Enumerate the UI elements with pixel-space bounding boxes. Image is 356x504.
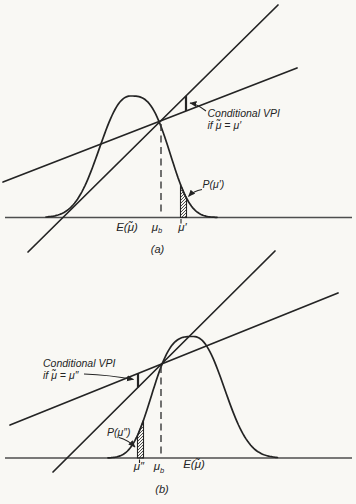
panel-b-expectation-label: E(μ̃) xyxy=(183,458,205,470)
panel-a-prob-label: P(μ′) xyxy=(203,178,225,190)
panel-a-expectation-label: E(μ̃) xyxy=(116,221,138,233)
panel-b: Conditional VPI if μ̃ = μ″ P(μ″) μ″ μb E… xyxy=(5,251,352,495)
panel-a-caption: (a) xyxy=(151,243,165,255)
panel-a: Conditional VPI if μ̃ = μ′ P(μ′) E(μ̃) μ… xyxy=(3,5,352,255)
panel-a-mu-b-label: μb xyxy=(151,221,162,236)
panel-b-probability-strip xyxy=(138,420,144,458)
panel-a-density-curve xyxy=(46,96,217,217)
panel-a-vpi-annotation-line1: Conditional VPI xyxy=(208,107,280,119)
vpi-figure: Conditional VPI if μ̃ = μ′ P(μ′) E(μ̃) μ… xyxy=(0,0,356,504)
panel-b-caption: (b) xyxy=(155,483,169,495)
panel-a-probability-strip xyxy=(181,184,187,217)
figure-canvas: Conditional VPI if μ̃ = μ′ P(μ′) E(μ̃) μ… xyxy=(0,0,356,504)
panel-a-mu-prime-label: μ′ xyxy=(177,221,187,233)
panel-b-mu-double-prime-label: μ″ xyxy=(133,460,145,472)
panel-a-shallow-payoff-line xyxy=(3,68,297,182)
panel-b-vpi-annotation-line2: if μ̃ = μ″ xyxy=(43,369,80,381)
panel-a-prob-arrow xyxy=(189,190,203,197)
panel-b-vpi-arrow xyxy=(84,374,134,380)
panel-b-vpi-annotation-line1: Conditional VPI xyxy=(43,357,115,369)
panel-b-mu-b-label: μb xyxy=(153,460,164,475)
panel-b-prob-label: P(μ″) xyxy=(107,426,130,438)
panel-b-density-curve xyxy=(108,337,278,458)
panel-a-vpi-annotation-line2: if μ̃ = μ′ xyxy=(208,119,243,131)
